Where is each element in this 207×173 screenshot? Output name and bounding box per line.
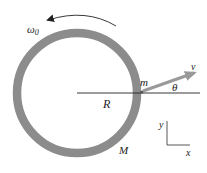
velocity-label: v	[191, 61, 196, 72]
x-axis-label: x	[185, 147, 191, 158]
omega-label: ω0	[27, 23, 39, 37]
mass-point-label: m	[140, 76, 148, 88]
y-axis-label: y	[158, 119, 164, 130]
xy-axes-icon	[167, 121, 190, 145]
velocity-arrow-icon	[143, 73, 194, 91]
rotation-arrow-icon	[48, 15, 116, 26]
diagram-canvas: ω0 m v θ R M y x	[0, 0, 207, 173]
ring-mass-label: M	[118, 144, 129, 156]
angle-label: θ	[172, 81, 178, 93]
radius-label: R	[102, 97, 111, 111]
